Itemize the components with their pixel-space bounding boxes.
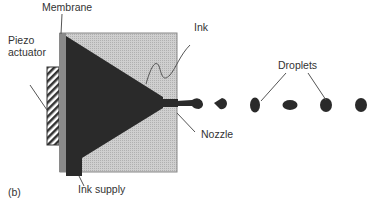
droplet-1	[214, 98, 227, 109]
membrane-label: Membrane	[42, 1, 92, 13]
droplet-4	[320, 98, 332, 112]
panel-label: (b)	[8, 186, 21, 198]
emerging-droplet	[176, 98, 203, 109]
piezo-label: Piezo	[8, 34, 34, 46]
inkjet-diagram	[0, 0, 377, 209]
nozzle	[163, 99, 178, 107]
droplet-3	[283, 100, 298, 110]
membrane	[59, 33, 66, 172]
piezo-leader	[30, 85, 47, 110]
ink-label: Ink	[194, 21, 208, 33]
droplets-leader-1	[261, 73, 286, 101]
nozzle-label: Nozzle	[201, 128, 233, 140]
droplets-label: Droplets	[278, 59, 317, 71]
ink-supply-channel	[66, 140, 82, 176]
membrane-leader	[61, 14, 62, 34]
nozzle-leader	[177, 113, 195, 132]
actuator-label: actuator	[8, 46, 46, 58]
ink-supply-label: Ink supply	[78, 183, 125, 195]
piezo-actuator	[47, 67, 59, 145]
droplet-5	[355, 98, 367, 112]
droplet-2	[250, 98, 260, 113]
droplets-leader-2	[308, 73, 326, 100]
